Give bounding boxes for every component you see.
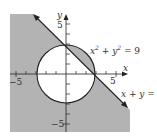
y-tick-label-neg5: −5	[51, 119, 65, 129]
y-axis-label: y	[56, 10, 63, 20]
y-tick-label-5: 5	[57, 20, 63, 30]
line-equation-label: x + y = 3	[121, 89, 157, 99]
x-axis-label: x	[123, 63, 128, 73]
region-plot: y 5 −5 −5 5 x x2 + y2 = 9 x + y = 3	[0, 0, 157, 136]
x-tick-label-neg5: −5	[9, 77, 23, 87]
x-tick-label-5: 5	[110, 76, 116, 86]
